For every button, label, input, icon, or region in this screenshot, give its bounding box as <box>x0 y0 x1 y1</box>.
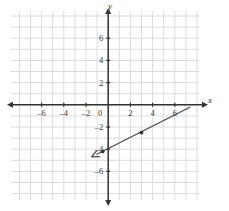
x-axis-label: x <box>207 95 212 105</box>
y-tick-label: –2 <box>94 122 104 132</box>
x-tick-label: –2 <box>81 108 91 118</box>
data-point-marker <box>140 131 144 135</box>
y-tick-label: 6 <box>99 33 103 43</box>
plot-canvas: –6–4–20246642–2–4–6 y x <box>0 0 229 211</box>
y-tick-label: 4 <box>99 55 104 65</box>
y-tick-label: –6 <box>94 166 104 176</box>
x-tick-label: 0 <box>98 108 102 118</box>
data-point-marker <box>101 150 105 154</box>
x-axis-arrow-left <box>7 102 13 108</box>
x-tick-label: 4 <box>150 108 155 118</box>
y-axis-arrow-down <box>105 200 111 206</box>
y-axis-label: y <box>107 1 112 11</box>
y-tick-label: 2 <box>99 78 103 88</box>
x-tick-label: –4 <box>59 108 69 118</box>
coordinate-graph-figure: –6–4–20246642–2–4–6 y x © 1989 by Prenti… <box>0 0 229 211</box>
x-tick-label: –6 <box>36 108 46 118</box>
ray-line <box>96 107 190 154</box>
x-tick-label: 2 <box>128 108 132 118</box>
